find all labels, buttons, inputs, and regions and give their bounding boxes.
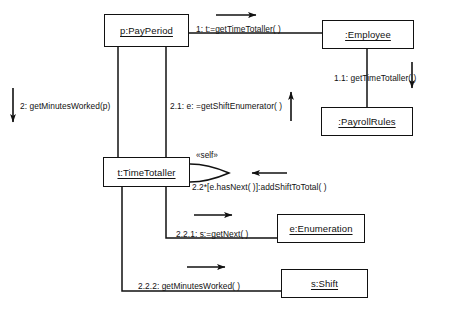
message-label-1: 1: t:=getTimeTotaller( )	[196, 24, 281, 34]
object-timetotaller[interactable]: t:TimeTotaller	[103, 157, 190, 187]
self-link-lens	[190, 164, 229, 182]
object-payperiod[interactable]: p:PayPeriod	[104, 14, 189, 47]
message-label-2-2-1: 2.2.1: s:=getNext( )	[176, 229, 248, 239]
object-label-shift: s:Shift	[311, 278, 338, 289]
link-timetotaller-shift	[122, 187, 281, 291]
object-enumeration[interactable]: e:Enumeration	[277, 214, 365, 243]
object-employee[interactable]: :Employee	[322, 20, 414, 49]
message-label-1-1: 1.1: getTimeTotaller( )	[334, 73, 416, 83]
message-label-2-2-2: 2.2.2: getMinutesWorked( )	[138, 281, 240, 291]
object-label-employee: :Employee	[345, 29, 391, 40]
message-label-2-1: 2.1: e: =getShiftEnumerator( )	[170, 101, 282, 111]
uml-communication-diagram: p:PayPeriod :Employee :PayrollRules t:Ti…	[0, 0, 460, 314]
object-payrollrules[interactable]: :PayrollRules	[321, 107, 413, 136]
object-label-payrollrules: :PayrollRules	[338, 116, 395, 127]
message-label-2-2: 2.2*[e.hasNext( )]:addShiftToTotal( )	[192, 182, 327, 192]
object-label-timetotaller: t:TimeTotaller	[117, 167, 175, 178]
object-shift[interactable]: s:Shift	[281, 269, 368, 298]
object-label-payperiod: p:PayPeriod	[120, 25, 173, 36]
object-label-enumeration: e:Enumeration	[289, 223, 352, 234]
stereotype-self: «self»	[196, 151, 218, 160]
message-label-2: 2: getMinutesWorked(p)	[20, 101, 110, 111]
